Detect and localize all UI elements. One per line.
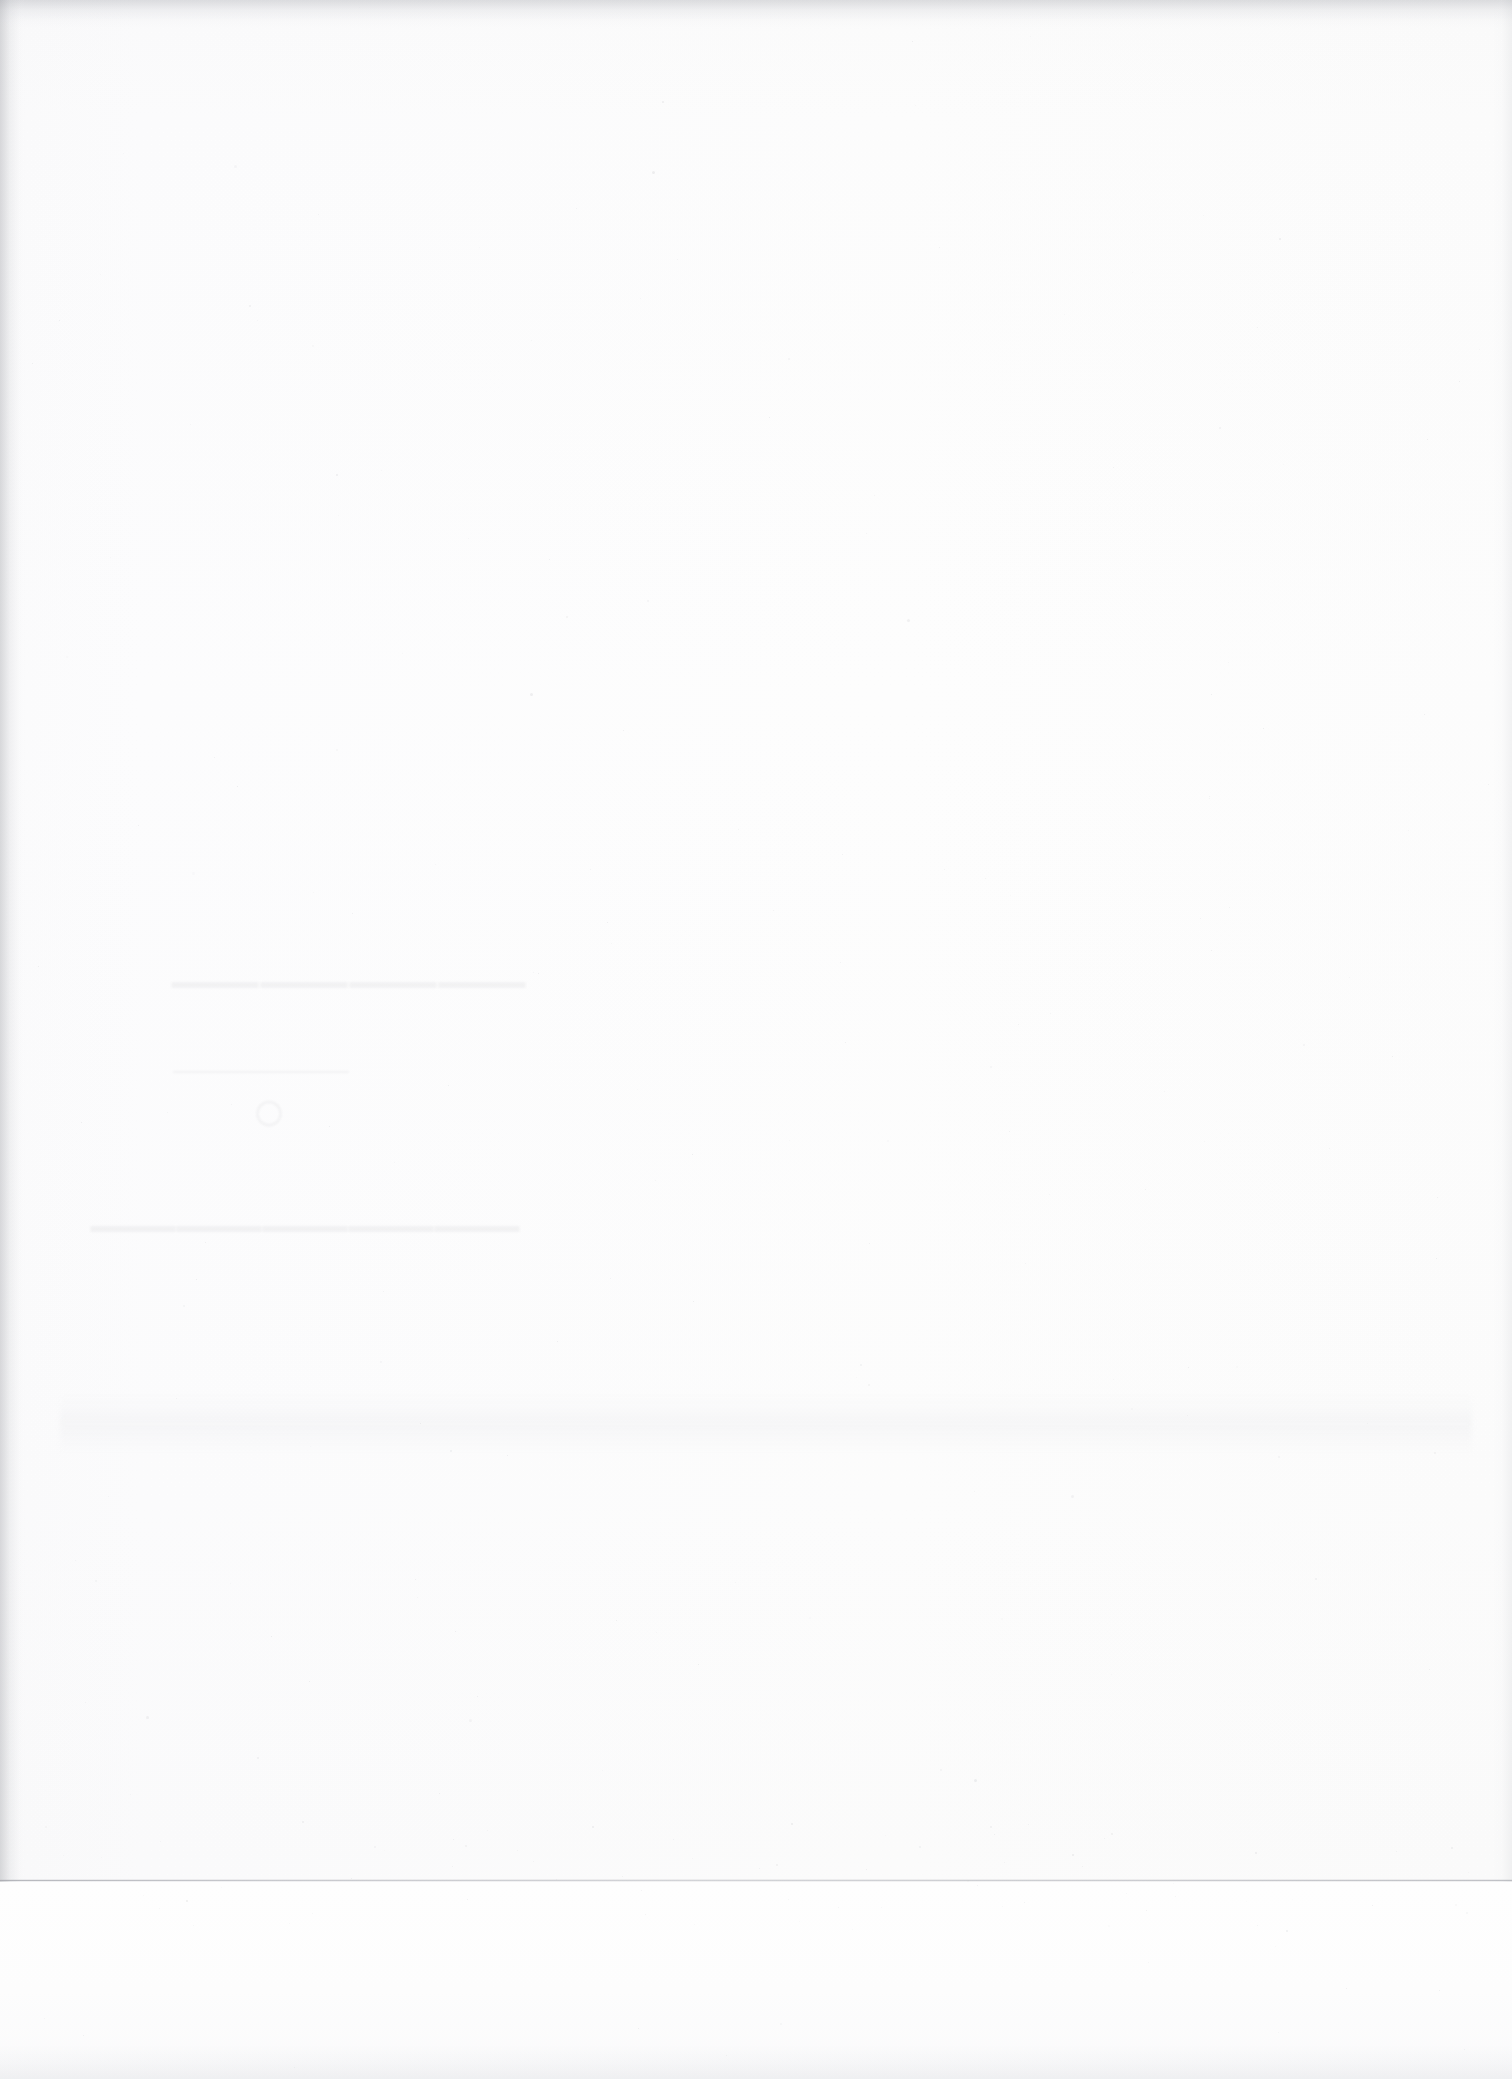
paper-curl-shadow	[60, 1395, 1472, 1455]
scan-edge-left	[0, 0, 26, 2079]
bottom-smudge-band	[0, 2045, 1512, 2079]
paper-surface	[0, 0, 1512, 2079]
scan-edge-right	[1492, 0, 1512, 2079]
page-edge-seam	[0, 1879, 1512, 1882]
scan-edge-top	[0, 0, 1512, 30]
scanned-page: ———— ○ —————	[0, 0, 1512, 2079]
